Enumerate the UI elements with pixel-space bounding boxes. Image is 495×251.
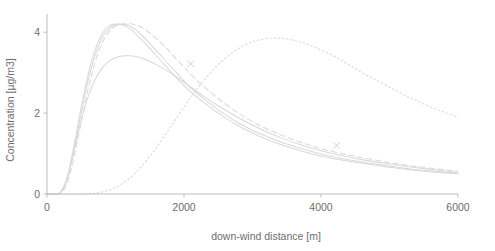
y-tick-label-0: 0 bbox=[34, 188, 40, 200]
chart-plot-svg: 0240200040006000 down-wind distance [m] … bbox=[0, 0, 495, 251]
y-axis-title: Concentration [µg/m3] bbox=[4, 58, 16, 162]
series-lower-solid-curve bbox=[47, 56, 458, 195]
x-axis-title: down-wind distance [m] bbox=[211, 230, 321, 242]
chart-container: 0240200040006000 down-wind distance [m] … bbox=[0, 0, 495, 251]
x-tick-label-0: 0 bbox=[44, 201, 50, 213]
x-marker-1 bbox=[188, 61, 194, 67]
tick-labels-group: 0240200040006000 bbox=[34, 26, 470, 213]
x-tick-label-6000: 6000 bbox=[446, 201, 470, 213]
axes-group bbox=[44, 14, 459, 198]
x-tick-label-4000: 4000 bbox=[309, 201, 333, 213]
series-solid-curve-1 bbox=[47, 24, 458, 194]
x-marker-2 bbox=[334, 142, 340, 148]
x-tick-label-2000: 2000 bbox=[172, 201, 196, 213]
y-tick-label-4: 4 bbox=[34, 26, 40, 38]
y-tick-label-2: 2 bbox=[34, 107, 40, 119]
curves-group bbox=[47, 24, 458, 195]
